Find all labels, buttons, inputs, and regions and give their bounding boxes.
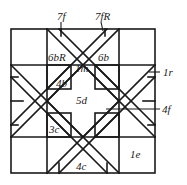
label-4c: 4c — [76, 160, 87, 172]
label-3c: 3c — [48, 123, 60, 135]
label-1m: 1m — [75, 62, 89, 74]
label-6bR: 6bR — [48, 51, 66, 63]
label-7fR: 7fR — [95, 10, 111, 22]
label-6b: 6b — [98, 51, 110, 63]
label-5d: 5d — [76, 94, 88, 106]
label-7f: 7f — [57, 10, 68, 22]
label-1r: 1r — [163, 66, 174, 78]
label-4f: 4f — [162, 103, 173, 115]
crease-pattern-diagram: 7f 7fR 6bR 6b 1m 4b 5d 1r 4f 3c 4c 1e — [0, 0, 187, 185]
label-4b: 4b — [56, 77, 68, 89]
label-1e: 1e — [130, 148, 141, 160]
